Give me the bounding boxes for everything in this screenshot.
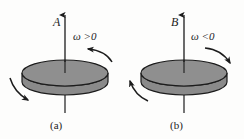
- panel-a-vector-label: A: [53, 16, 60, 28]
- panel-b-rotation-arrow-top-right: [205, 48, 230, 63]
- panel-a-omega-label: ω >0: [73, 31, 96, 42]
- figure-container: A ω >0 (a) B ω <0 (b): [0, 0, 244, 139]
- panel-b-caption: (b): [170, 120, 183, 131]
- panel-a-rotation-arrow-top-right: [88, 49, 112, 62]
- panel-b-omega-label: ω <0: [191, 31, 214, 42]
- panel-a-graphics: [10, 15, 112, 113]
- panel-b-graphics: [130, 15, 230, 113]
- panel-a-caption: (a): [50, 120, 62, 131]
- panel-b-vector-label: B: [171, 16, 178, 28]
- figure-drawing: [0, 0, 244, 139]
